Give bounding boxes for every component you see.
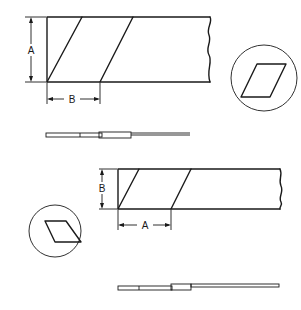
parallelogram-section-icon <box>45 221 81 242</box>
dimension-label-a: A <box>28 45 35 56</box>
dimension-a-vertical: A <box>25 17 46 82</box>
dimension-label-a: A <box>142 220 149 231</box>
arrow-down-icon <box>100 203 104 209</box>
top-diagonal-cut-1 <box>47 17 82 82</box>
bottom-detail-inset <box>29 205 81 257</box>
arrow-up-icon <box>29 17 33 23</box>
arrow-left-icon <box>47 97 53 101</box>
parallelogram-section-icon <box>241 64 286 97</box>
upper-strip <box>191 284 279 287</box>
top-view: A B <box>25 17 297 111</box>
bottom-side-profile <box>118 284 279 290</box>
arrow-right-icon <box>165 223 171 227</box>
dimension-a-horizontal: A <box>118 210 171 231</box>
top-detail-inset <box>231 45 297 111</box>
bottom-view: B A <box>29 169 282 257</box>
arrow-right-icon <box>94 97 100 101</box>
top-side-profile <box>46 132 190 138</box>
top-diagonal-cut-2 <box>100 17 133 82</box>
dimension-b-vertical: B <box>99 169 117 209</box>
arrow-down-icon <box>29 76 33 82</box>
bottom-diagonal-cut-2 <box>171 169 191 209</box>
lower-strip <box>118 286 172 290</box>
overlap-joint <box>171 284 191 290</box>
bottom-strip-outline <box>118 169 280 209</box>
arrow-up-icon <box>100 169 104 175</box>
dimension-label-b: B <box>99 183 106 194</box>
overlap-joint <box>99 132 131 138</box>
dimension-b-horizontal: B <box>47 83 100 105</box>
dimension-label-b: B <box>69 94 76 105</box>
bottom-break-line-icon <box>280 169 282 209</box>
technical-drawing: A B <box>0 0 301 310</box>
top-break-line-icon <box>208 17 211 82</box>
bottom-diagonal-cut-1 <box>118 169 139 209</box>
arrow-left-icon <box>118 223 124 227</box>
lower-strip <box>46 133 102 137</box>
